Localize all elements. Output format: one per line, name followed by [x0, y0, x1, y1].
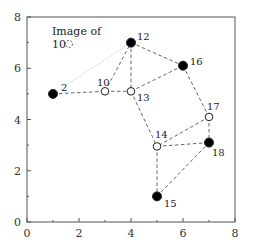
edge-dashed	[131, 43, 183, 66]
edge-dashed	[183, 66, 209, 117]
ghost-node-icon	[66, 41, 73, 48]
edge-dashed	[157, 143, 209, 147]
node-label-14: 14	[155, 129, 168, 140]
node-16-icon	[179, 61, 188, 70]
annotation: Image of 10	[52, 25, 102, 51]
node-label-18: 18	[212, 147, 225, 158]
node-label-16: 16	[190, 56, 203, 67]
x-tick-label: 0	[24, 227, 31, 240]
annotation-line1: Image of	[52, 25, 102, 38]
y-tick-label: 2	[14, 165, 21, 178]
node-label-2: 2	[61, 82, 67, 93]
node-17-icon	[205, 113, 213, 121]
x-tick-label: 8	[232, 227, 239, 240]
node-2-icon	[49, 89, 58, 98]
node-13-icon	[127, 88, 135, 96]
edge-dashed	[157, 143, 209, 197]
x-tick-label: 4	[128, 227, 135, 240]
y-tick-label: 6	[14, 62, 21, 75]
node-10-icon	[101, 88, 109, 96]
y-tick-label: 0	[14, 216, 21, 229]
node-label-17: 17	[207, 101, 220, 112]
annotation-line2: 10	[52, 38, 66, 51]
nodes: 21012131415161718	[49, 31, 225, 210]
edge-dashed	[131, 66, 183, 92]
x-tick-label: 2	[76, 227, 83, 240]
node-14-icon	[153, 143, 161, 151]
node-label-10: 10	[97, 77, 110, 88]
node-15-icon	[153, 192, 162, 201]
node-label-15: 15	[164, 198, 177, 209]
node-label-13: 13	[137, 92, 150, 103]
network-diagram: 0246802468 21012131415161718 Image of 10	[0, 0, 253, 248]
y-tick-label: 8	[14, 11, 21, 24]
node-12-icon	[127, 38, 136, 47]
x-tick-label: 6	[180, 227, 187, 240]
node-label-12: 12	[137, 31, 150, 42]
y-tick-label: 4	[14, 114, 21, 127]
